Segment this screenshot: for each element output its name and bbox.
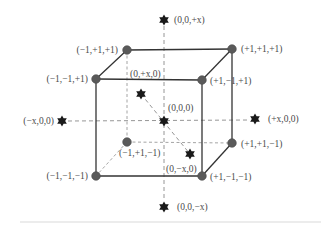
- label-vertex-p1-m1-p1: (+1,−1,+1): [210, 76, 251, 87]
- vertex-m1-m1-p1: [92, 75, 101, 84]
- vertex-m1-p1-p1: [123, 46, 132, 55]
- vertex-p1-p1-p1: [228, 45, 237, 54]
- vertex-p1-m1-p1: [198, 76, 207, 85]
- star-back-icon: [136, 89, 146, 100]
- hidden-edge-back-bottom: [127, 142, 232, 143]
- label-star-right: (+x,0,0): [268, 114, 299, 125]
- label-vertex-m1-p1-m1: (−1,+1,−1): [119, 148, 160, 159]
- label-vertex-p1-p1-m1: (+1,+1,−1): [241, 139, 282, 150]
- star-top-icon: [159, 15, 169, 26]
- label-star-back: (0,+x,0): [130, 69, 161, 80]
- vertex-m1-m1-m1: [92, 172, 101, 181]
- label-star-front: (0,−x,0): [166, 164, 197, 175]
- label-vertex-p1-m1-m1: (+1,−1,−1): [210, 172, 251, 183]
- horizontal-axis-line: [68, 120, 250, 121]
- cube-design-diagram: (−1,+1,+1) (+1,+1,+1) (−1,−1,+1) (+1,−1,…: [0, 0, 321, 228]
- label-star-bottom: (0,0,−x): [177, 202, 208, 213]
- label-vertex-m1-m1-p1: (−1,−1,+1): [47, 74, 88, 85]
- star-center-icon: [159, 116, 169, 127]
- star-right-icon: [250, 114, 260, 125]
- label-vertex-m1-p1-p1: (−1,+1,+1): [77, 45, 118, 56]
- label-star-left: (−x,0,0): [23, 116, 54, 127]
- label-star-center: (0,0,0): [168, 103, 193, 114]
- label-vertex-m1-m1-m1: (−1,−1,−1): [47, 171, 88, 182]
- vertex-p1-p1-m1: [228, 139, 237, 148]
- star-bottom-icon: [159, 202, 169, 213]
- vertex-p1-m1-m1: [198, 172, 207, 181]
- edge-back-top: [127, 49, 232, 50]
- vertex-m1-p1-m1: [123, 138, 132, 147]
- edge-front-top: [96, 79, 202, 80]
- label-star-top: (0,0,+x): [174, 15, 205, 26]
- label-vertex-p1-p1-p1: (+1,+1,+1): [241, 44, 282, 55]
- star-left-icon: [57, 116, 67, 127]
